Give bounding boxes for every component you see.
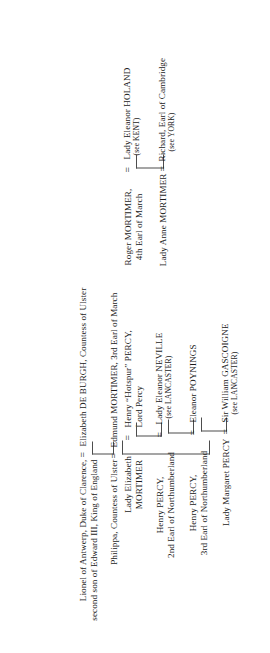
person-name-line: 2nd Earl of Northumberland [166, 442, 177, 567]
person-name-line: MORTIMER [134, 445, 145, 523]
person-name-line: Eleanor POYNINGS [188, 344, 199, 422]
person-philippa-countess-of-ulster: Philippa, Countess of Ulster [109, 459, 120, 589]
person-lady-anne-mortimer: Lady Anne MORTIMER [158, 173, 169, 291]
marriage-sign-roger-eleanor-holand: = [123, 167, 133, 172]
person-name-line: 4th Earl of March [134, 174, 145, 279]
person-name-line: Lionel of Antwerp, Duke of Clarence, [78, 459, 89, 639]
person-reference-line: (see LANCASTER) [165, 274, 174, 424]
person-name-line: Henry PERCY, [188, 440, 199, 565]
person-lady-margaret-percy: Lady Margaret PERCY [221, 438, 232, 543]
person-eleanor-poynings: Eleanor POYNINGS [188, 344, 199, 422]
person-reference-line: (see LANCASTER) [231, 262, 240, 422]
person-name-line: 3rd Earl of Northumberland [199, 440, 210, 565]
person-name-line: Henry “Hotspur” PERCY, [123, 277, 134, 427]
person-roger-mortimer-4th-earl: Roger MORTIMER, 4th Earl of March [123, 174, 144, 279]
person-henry-hotspur-percy: Henry “Hotspur” PERCY, Lord Percy [123, 277, 144, 427]
marriage-sign-anne-richard: = [158, 166, 168, 171]
person-lady-elizabeth-mortimer: Lady Elizabeth MORTIMER [123, 445, 144, 523]
person-name-line: second son of Edward III, King of Englan… [89, 459, 100, 639]
person-name-line: Henry PERCY, [155, 442, 166, 567]
person-name-line: Lady Elizabeth [123, 445, 134, 523]
marriage-sign-elizabeth-hotspur: = [123, 435, 133, 440]
person-richard-earl-of-cambridge: Richard, Earl of Cambridge (see YORK) [157, 1, 177, 161]
person-name-line: Roger MORTIMER, [123, 174, 134, 279]
marriage-sign-henry2-eleanor-neville: = [155, 432, 165, 437]
marriage-sign-margaret-gascoigne: = [221, 429, 231, 434]
person-lady-eleanor-neville: Lady Eleanor NEVILLE (see LANCASTER) [154, 274, 174, 424]
person-reference-line: (see KENT) [133, 9, 142, 159]
person-reference-line: (see YORK) [168, 1, 177, 161]
person-name-line: Philippa, Countess of Ulster [109, 459, 120, 589]
marriage-sign-henry3-eleanor-poynings: = [188, 430, 198, 435]
marriage-sign-lionel-elizabeth: = [78, 452, 88, 457]
person-name-line: Elizabeth DE BURGH, Countess of Ulster [78, 287, 89, 446]
person-lady-eleanor-holand: Lady Eleanor HOLAND (see KENT) [122, 9, 142, 159]
family-tree-canvas: Lionel of Antwerp, Duke of Clarence, sec… [0, 0, 270, 653]
person-elizabeth-de-burgh: Elizabeth DE BURGH, Countess of Ulster [78, 287, 89, 446]
person-name-line: Lady Margaret PERCY [221, 438, 232, 543]
person-name-line: Lord Percy [134, 277, 145, 427]
person-sir-william-gascoigne: Sir William GASCOIGNE (see LANCASTER) [220, 262, 240, 422]
person-henry-percy-3rd-earl: Henry PERCY, 3rd Earl of Northumberland [188, 440, 209, 565]
person-edmund-mortimer: Edmund MORTIMER, 3rd Earl of March [109, 292, 120, 447]
person-lionel-of-antwerp: Lionel of Antwerp, Duke of Clarence, sec… [78, 459, 99, 639]
marriage-sign-philippa-edmund: = [109, 453, 119, 458]
person-henry-percy-2nd-earl: Henry PERCY, 2nd Earl of Northumberland [155, 442, 176, 567]
person-name-line: Edmund MORTIMER, 3rd Earl of March [109, 292, 120, 447]
person-name-line: Lady Anne MORTIMER [158, 173, 169, 291]
